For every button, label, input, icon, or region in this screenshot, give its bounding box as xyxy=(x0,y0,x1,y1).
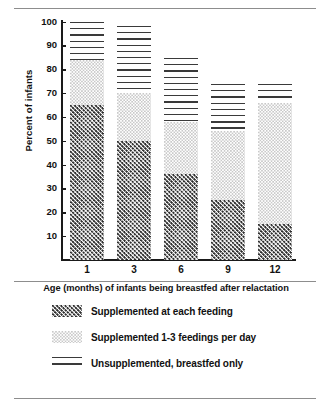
x-tick-label-12: 12 xyxy=(260,264,290,275)
bar-3-seg-supplemented-1-3-feedings xyxy=(117,93,151,141)
bar-1-seg-supplemented-1-3-feedings xyxy=(70,60,104,105)
x-axis-title: Age (months) of infants being breastfed … xyxy=(10,283,322,293)
bar-stack-12 xyxy=(258,84,292,260)
figure-page: Percent of infants 100 90 80 70 60 50 40… xyxy=(0,0,330,407)
x-tick-label-9: 9 xyxy=(213,264,243,275)
legend-label-supplemented-1-3-feedings: Supplemented 1-3 feedings per day xyxy=(91,332,256,343)
horizontal-lines-swatch-icon xyxy=(52,357,82,369)
bar-9-seg-unsupplemented xyxy=(211,84,245,132)
bars-layer xyxy=(0,0,330,260)
bottom-divider-rule xyxy=(14,398,316,399)
legend-item-supplemented-1-3-feedings: Supplemented 1-3 feedings per day xyxy=(52,328,256,346)
x-tick-label-6: 6 xyxy=(166,264,196,275)
bar-1-seg-unsupplemented xyxy=(70,22,104,60)
x-tick-label-1: 1 xyxy=(72,264,102,275)
x-tick-label-3: 3 xyxy=(119,264,149,275)
bar-6-seg-supplemented-each-feeding xyxy=(164,174,198,260)
bar-stack-3 xyxy=(117,27,151,261)
legend-label-unsupplemented: Unsupplemented, breastfed only xyxy=(91,358,243,369)
legend-item-supplemented-each-feeding: Supplemented at each feeding xyxy=(52,302,233,320)
bar-3-seg-supplemented-each-feeding xyxy=(117,141,151,260)
bar-12-seg-unsupplemented xyxy=(258,84,292,103)
bar-9-seg-supplemented-1-3-feedings xyxy=(211,131,245,200)
chart-plot-area: Percent of infants 100 90 80 70 60 50 40… xyxy=(0,0,330,270)
bar-3-seg-unsupplemented xyxy=(117,26,151,93)
middle-divider-rule xyxy=(14,281,316,282)
legend-label-supplemented-each-feeding: Supplemented at each feeding xyxy=(91,306,233,317)
bar-stack-9 xyxy=(211,84,245,260)
bar-1-seg-supplemented-each-feeding xyxy=(70,105,104,260)
bar-stack-1 xyxy=(70,22,104,260)
bar-stack-6 xyxy=(164,57,198,260)
bar-12-seg-supplemented-each-feeding xyxy=(258,224,292,260)
bar-6-seg-supplemented-1-3-feedings xyxy=(164,122,198,174)
bar-12-seg-supplemented-1-3-feedings xyxy=(258,103,292,225)
bar-9-seg-supplemented-each-feeding xyxy=(211,200,245,260)
legend-item-unsupplemented: Unsupplemented, breastfed only xyxy=(52,354,243,372)
bar-6-seg-unsupplemented xyxy=(164,58,198,122)
light-stipple-swatch-icon xyxy=(52,331,82,343)
dense-dots-swatch-icon xyxy=(52,305,82,317)
